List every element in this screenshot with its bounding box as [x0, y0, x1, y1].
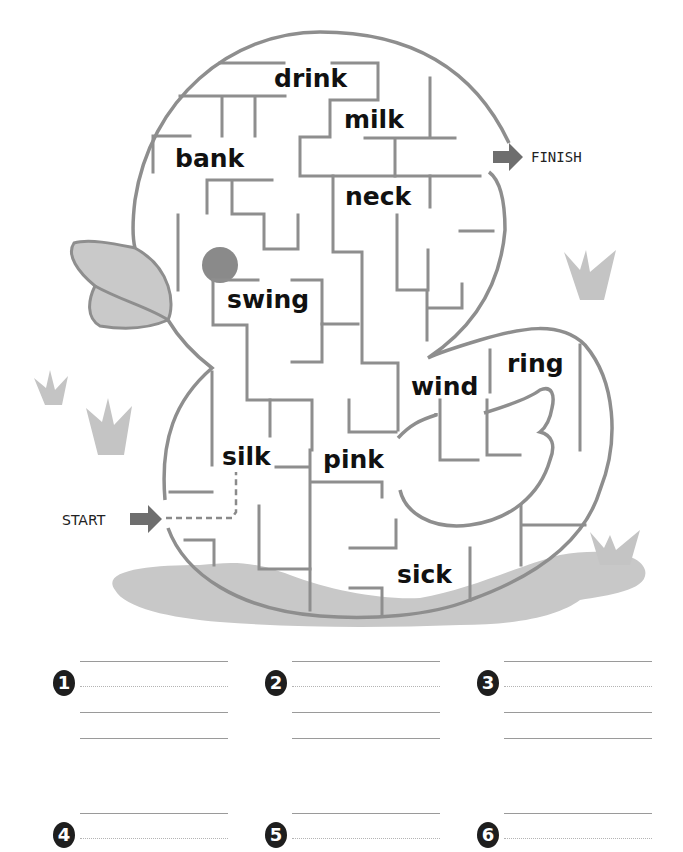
writing-line-mid — [292, 838, 440, 839]
writing-line-base — [80, 712, 228, 713]
writing-line-top — [292, 813, 440, 814]
maze-word-neck: neck — [345, 182, 413, 211]
answer-section: 1 2 3 4 5 6 — [0, 660, 683, 837]
duck-eye — [202, 247, 238, 283]
writing-line-mid — [504, 838, 652, 839]
maze-word-wind: wind — [411, 372, 478, 401]
answer-slot-1[interactable]: 1 — [53, 660, 253, 740]
writing-line-bottom — [80, 738, 228, 739]
answer-slot-3[interactable]: 3 — [477, 660, 677, 740]
finish-arrow-icon — [493, 143, 523, 171]
writing-line-top — [80, 813, 228, 814]
maze-word-milk: milk — [344, 105, 405, 134]
writing-line-top — [504, 661, 652, 662]
writing-line-base — [504, 712, 652, 713]
start-arrow-icon — [130, 505, 162, 533]
number-badge: 2 — [265, 670, 287, 696]
maze-word-sick: sick — [397, 560, 453, 589]
maze-word-silk: silk — [222, 442, 272, 471]
writing-line-mid — [80, 838, 228, 839]
number-badge: 3 — [477, 670, 499, 696]
number-badge: 6 — [477, 822, 499, 848]
start-path — [166, 472, 236, 518]
maze-word-ring: ring — [507, 349, 564, 378]
maze-word-pink: pink — [323, 445, 385, 474]
writing-line-bottom — [292, 738, 440, 739]
writing-line-top — [504, 813, 652, 814]
maze-word-bank: bank — [175, 144, 246, 173]
finish-label: FINISH — [531, 149, 582, 165]
answer-slot-4[interactable]: 4 — [53, 812, 253, 852]
duck-wing — [398, 389, 553, 526]
writing-line-mid — [80, 686, 228, 687]
start-label: START — [62, 512, 106, 528]
number-badge: 1 — [53, 670, 75, 696]
number-badge: 4 — [53, 822, 75, 848]
writing-line-top — [80, 661, 228, 662]
writing-line-mid — [504, 686, 652, 687]
answer-slot-6[interactable]: 6 — [477, 812, 677, 852]
writing-line-bottom — [504, 738, 652, 739]
answer-slot-2[interactable]: 2 — [265, 660, 465, 740]
writing-line-base — [292, 712, 440, 713]
maze-word-swing: swing — [227, 285, 309, 314]
answer-slot-5[interactable]: 5 — [265, 812, 465, 852]
maze-word-drink: drink — [274, 64, 349, 93]
writing-line-mid — [292, 686, 440, 687]
writing-line-top — [292, 661, 440, 662]
number-badge: 5 — [265, 822, 287, 848]
